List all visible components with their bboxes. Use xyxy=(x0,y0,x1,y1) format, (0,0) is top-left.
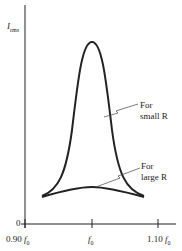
y-tick-label-0: 0 xyxy=(16,219,21,228)
x-tick-label-0.90f0: 0.90 f0 xyxy=(6,235,30,246)
legend-large-r: Forlarge R xyxy=(141,161,167,183)
chart-plot xyxy=(0,0,182,251)
legend-small-r: Forsmall R xyxy=(140,100,168,122)
y-axis-label: Irms xyxy=(7,22,19,33)
x-tick-label-f0: f0 xyxy=(88,235,94,246)
series-small-r-curve xyxy=(42,42,144,196)
leader-line-large-r xyxy=(96,168,140,187)
resonance-chart: Irms 0 0.90 f0 f0 1.10 f0 Forsmall R For… xyxy=(0,0,182,251)
series-large-r-curve xyxy=(42,187,144,197)
x-tick-label-1.10f0: 1.10 f0 xyxy=(147,235,171,246)
